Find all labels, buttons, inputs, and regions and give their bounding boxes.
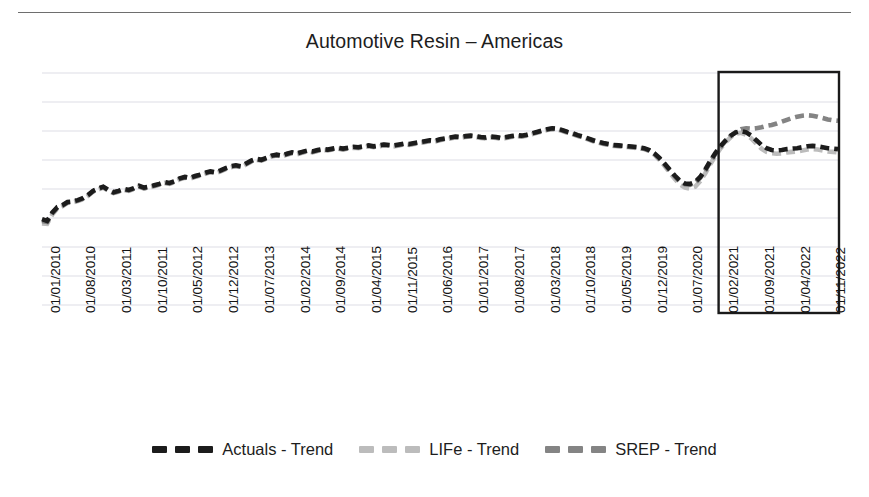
legend-item-life[interactable]: LIFe - Trend bbox=[359, 441, 519, 458]
legend-swatch-actuals-icon bbox=[152, 446, 214, 453]
chart-figure: Automotive Resin – Americas 01/01/201001… bbox=[0, 0, 869, 497]
x-tick-label: 01/07/2013 bbox=[262, 246, 277, 313]
x-tick-label: 01/02/2021 bbox=[726, 246, 741, 313]
x-tick-label: 01/01/2017 bbox=[476, 246, 491, 313]
x-tick-label: 01/08/2010 bbox=[83, 246, 98, 313]
x-tick-label: 01/06/2016 bbox=[440, 246, 455, 313]
x-tick-label: 01/12/2019 bbox=[655, 246, 670, 313]
legend-label-srep: SREP - Trend bbox=[615, 441, 717, 458]
legend-swatch-srep-icon bbox=[545, 446, 607, 453]
x-tick-label: 01/02/2014 bbox=[298, 246, 313, 313]
chart-legend: Actuals - TrendLIFe - TrendSREP - Trend bbox=[0, 441, 869, 458]
x-tick-label: 01/11/2015 bbox=[405, 247, 420, 313]
x-tick-label: 01/04/2022 bbox=[798, 246, 813, 313]
x-tick-label: 01/10/2011 bbox=[155, 247, 170, 313]
legend-label-actuals: Actuals - Trend bbox=[222, 441, 333, 458]
legend-item-srep[interactable]: SREP - Trend bbox=[545, 441, 717, 458]
x-tick-label: 01/07/2020 bbox=[690, 246, 705, 313]
legend-item-actuals[interactable]: Actuals - Trend bbox=[152, 441, 333, 458]
legend-label-life: LIFe - Trend bbox=[429, 441, 519, 458]
x-tick-label: 01/04/2015 bbox=[369, 246, 384, 313]
x-tick-label: 01/05/2019 bbox=[619, 246, 634, 313]
legend-swatch-life-icon bbox=[359, 446, 421, 453]
x-tick-label: 01/11/2022 bbox=[833, 247, 848, 313]
x-tick-label: 01/05/2012 bbox=[190, 246, 205, 313]
x-tick-label: 01/08/2017 bbox=[512, 246, 527, 313]
x-tick-label: 01/09/2014 bbox=[333, 246, 348, 313]
x-tick-label: 01/09/2021 bbox=[762, 246, 777, 313]
x-tick-label: 01/03/2011 bbox=[119, 247, 134, 313]
x-tick-label: 01/10/2018 bbox=[583, 246, 598, 313]
x-tick-label: 01/01/2010 bbox=[48, 246, 63, 313]
x-tick-label: 01/03/2018 bbox=[548, 246, 563, 313]
x-tick-label: 01/12/2012 bbox=[226, 246, 241, 313]
